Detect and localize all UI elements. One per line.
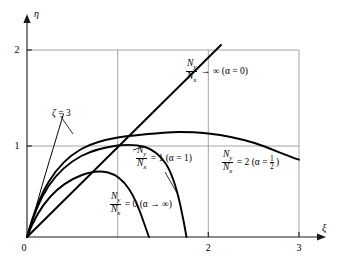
- fraction-numerator: Ny: [186, 59, 197, 72]
- x-tick-label-2: 2: [206, 242, 211, 253]
- annotation-relation: = 0 (α → ∞): [125, 200, 172, 210]
- annotation-ratio-two: Ny Nx = 2 (α = 1 2 ): [222, 150, 279, 175]
- fraction-ny-over-nx: Ny Nx: [186, 59, 197, 84]
- fraction-denominator: Nx: [222, 163, 233, 175]
- y-tick-label-2: 2: [15, 44, 20, 55]
- fraction-ny-over-nx: Ny Nx: [110, 192, 121, 217]
- fraction-denominator: Nx: [136, 159, 147, 171]
- fraction-one-half: 1 2: [270, 155, 274, 171]
- chart-figure: 2 1 0 2 3 η ξ Ny Nx → ∞ (α = 0): [0, 0, 343, 265]
- x-tick-label-3: 3: [297, 242, 302, 253]
- x-axis-arrowhead: [317, 233, 326, 240]
- fraction-ny-over-nx: Ny Nx: [222, 150, 233, 175]
- fraction-numerator: Ny: [222, 150, 233, 163]
- annotation-ratio-zero: Ny Nx = 0 (α → ∞): [110, 192, 172, 217]
- fraction-denominator: Nx: [186, 72, 197, 84]
- annotation-relation: = 1 (α = 1): [151, 154, 192, 164]
- annotation-zeta-3: ζ = 3: [52, 108, 71, 118]
- annotation-relation-prefix: = 2 (α =: [237, 158, 268, 168]
- half-denominator: 2: [270, 163, 274, 171]
- origin-tick-label: 0: [22, 242, 27, 253]
- fraction-ny-over-nx: Ny Nx: [136, 146, 147, 171]
- annotation-ratio-one: Ny Nx = 1 (α = 1): [136, 146, 192, 171]
- fraction-denominator: Nx: [110, 205, 121, 217]
- x-axis-label: ξ: [322, 222, 327, 234]
- y-tick-label-1: 1: [15, 140, 20, 151]
- y-axis-label: η: [34, 8, 39, 19]
- y-axis-arrowhead: [23, 14, 30, 23]
- annotation-relation-suffix: ): [276, 158, 279, 168]
- zeta-relation: = 3: [56, 108, 71, 118]
- zeta-label-leader-line: [61, 116, 74, 134]
- annotation-relation: → ∞ (α = 0): [201, 67, 248, 77]
- fraction-numerator: Ny: [136, 146, 147, 159]
- annotation-ratio-infinity: Ny Nx → ∞ (α = 0): [186, 59, 248, 84]
- chart-plot-area: 2 1 0 2 3 η ξ: [0, 0, 343, 265]
- fraction-numerator: Ny: [110, 192, 121, 205]
